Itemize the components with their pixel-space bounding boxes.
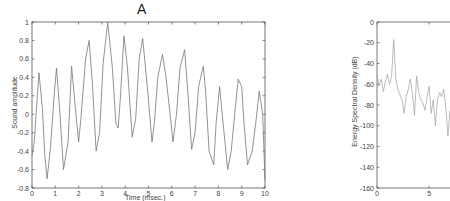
data-line (377, 40, 450, 137)
x-tick-label: 5 (147, 190, 151, 197)
y-tick-label: -40 (364, 60, 374, 67)
y-tick-label: -0.2 (17, 129, 29, 136)
y-tick-label: 1 (25, 19, 29, 26)
x-tick-label: 6 (170, 190, 174, 197)
chart-canvas: 012345678910-0.8-0.6-0.4-0.200.20.40.60.… (0, 0, 450, 201)
x-tick-label: 7 (193, 190, 197, 197)
y-tick-label: -0.4 (17, 148, 29, 155)
x-tick-label: 0 (30, 190, 34, 197)
x-tick-label: 9 (240, 190, 244, 197)
y-tick-label: -140 (360, 164, 374, 171)
x-tick-label: 0 (375, 190, 379, 197)
x-tick-label: 4 (123, 190, 127, 197)
figure: A Sound amplitude Time (msec.) Energy Sp… (0, 0, 450, 201)
y-tick-label: -100 (360, 122, 374, 129)
y-tick-label: 0.4 (19, 74, 29, 81)
y-tick-label: -120 (360, 143, 374, 150)
x-tick-label: 3 (100, 190, 104, 197)
y-tick-label: -80 (364, 102, 374, 109)
y-tick-label: -0.6 (17, 166, 29, 173)
y-tick-label: 0.2 (19, 92, 29, 99)
x-tick-label: 5 (427, 190, 431, 197)
y-tick-label: -160 (360, 185, 374, 192)
x-tick-label: 1 (53, 190, 57, 197)
y-tick-label: 0 (370, 19, 374, 26)
y-tick-label: 0 (25, 111, 29, 118)
y-tick-label: 0.6 (19, 55, 29, 62)
x-tick-label: 8 (216, 190, 220, 197)
x-tick-label: 10 (261, 190, 269, 197)
y-tick-label: 0.8 (19, 37, 29, 44)
x-tick-label: 2 (77, 190, 81, 197)
y-tick-label: -60 (364, 81, 374, 88)
data-line (32, 22, 265, 181)
y-tick-label: -20 (364, 39, 374, 46)
y-tick-label: -0.8 (17, 185, 29, 192)
